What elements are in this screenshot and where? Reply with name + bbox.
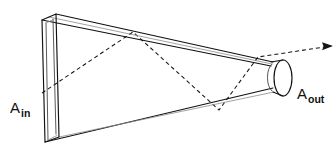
guide-body-group [42, 14, 274, 142]
ray-exit-arrow-icon [322, 42, 333, 50]
taper-body-fill [56, 14, 274, 137]
figure-container: A in A out [0, 0, 336, 156]
label-a-in: A in [10, 99, 30, 119]
label-a-out: A out [297, 85, 325, 105]
label-a-in-base: A [10, 99, 20, 116]
label-a-in-subscript: in [21, 107, 30, 119]
light-guide-diagram: A in A out [0, 0, 336, 156]
label-a-out-subscript: out [308, 93, 325, 105]
output-aperture-ellipse [274, 60, 292, 96]
label-a-out-base: A [297, 85, 307, 102]
